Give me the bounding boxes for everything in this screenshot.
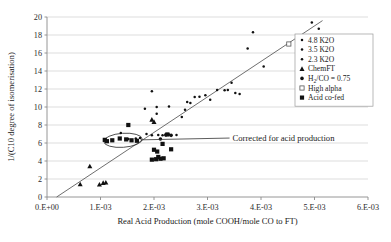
data-point (87, 164, 92, 169)
scatter-chart: 024681012141618200.E+001.E-032.E-033.E-0… (0, 0, 391, 242)
data-point (216, 89, 219, 92)
y-tick-label: 6 (38, 139, 42, 148)
data-point (168, 105, 171, 108)
x-axis-ticks: 0.E+001.E-032.E-033.E-034.E-035.E-036.E-… (35, 197, 379, 212)
x-tick-label: 4.E-03 (250, 203, 272, 212)
data-point (156, 155, 160, 159)
data-point (169, 134, 173, 138)
data-point (300, 86, 304, 90)
y-tick-label: 18 (34, 31, 42, 40)
data-point (198, 95, 201, 98)
data-point (184, 108, 187, 111)
legend: 4.8 K2O3.5 K2O2.3 K2OChemFTH2/CO = 0.75H… (295, 34, 373, 106)
legend-label: ChemFT (308, 64, 335, 73)
data-point (157, 134, 160, 137)
annotation-label: Corrected for acid production (233, 133, 336, 143)
data-point (318, 27, 321, 30)
x-axis-title: Real Acid Production (mole COOH/mole CO … (117, 216, 297, 226)
data-point (161, 134, 164, 137)
legend-label: High alpha (308, 84, 342, 93)
y-tick-label: 14 (34, 67, 42, 76)
data-point (105, 139, 109, 143)
data-point (246, 47, 249, 50)
series-high-alpha (287, 42, 291, 46)
legend-label: 3.5 K2O (308, 45, 335, 54)
legend-label: 2.3 K2O (308, 55, 335, 64)
annotation-leader-line (141, 138, 230, 140)
data-point (262, 65, 265, 68)
data-point (155, 113, 158, 116)
legend-label: Acid co-fed (308, 93, 344, 102)
data-point (151, 90, 154, 93)
x-tick-label: 0.E+00 (35, 203, 59, 212)
data-point (124, 137, 128, 141)
data-point (204, 94, 207, 97)
data-point (151, 134, 154, 137)
y-tick-label: 8 (38, 121, 42, 130)
y-axis-title: 1/(C10 degree of isomerisation) (6, 52, 16, 162)
data-point (227, 89, 230, 92)
y-tick-label: 2 (38, 175, 42, 184)
data-point (155, 149, 159, 153)
data-point (144, 108, 147, 111)
data-point (175, 134, 178, 137)
data-point (129, 138, 133, 142)
data-point (165, 132, 169, 136)
data-point (181, 116, 184, 119)
series-chemft (78, 117, 157, 186)
legend-item[interactable]: H2/CO = 0.75 (300, 74, 350, 84)
data-point (301, 39, 304, 42)
data-point (193, 96, 196, 99)
data-point (145, 133, 148, 136)
y-axis-ticks: 02468101214161820 (34, 13, 47, 202)
data-point (160, 142, 164, 146)
series-acid-co-fed (103, 123, 174, 162)
trendline (57, 21, 323, 197)
data-point (150, 158, 154, 162)
data-point (300, 77, 304, 81)
data-point (223, 89, 226, 92)
y-tick-label: 4 (38, 157, 42, 166)
data-point (155, 106, 158, 109)
data-point (189, 102, 192, 105)
data-point (110, 138, 114, 142)
data-point (238, 93, 241, 96)
data-point (311, 21, 314, 24)
y-tick-label: 20 (34, 13, 42, 22)
data-point (169, 147, 173, 151)
data-point (252, 31, 255, 34)
legend-label: 4.8 K2O (308, 36, 335, 45)
data-point (186, 101, 189, 104)
y-tick-label: 10 (34, 103, 42, 112)
data-point (118, 136, 122, 140)
data-point (287, 42, 291, 46)
x-tick-label: 1.E-03 (89, 203, 111, 212)
y-tick-label: 12 (34, 85, 42, 94)
data-point (139, 137, 142, 140)
x-tick-label: 2.E-03 (143, 203, 165, 212)
data-point (120, 132, 123, 135)
data-point (300, 96, 304, 100)
y-tick-label: 0 (38, 193, 42, 202)
y-tick-label: 16 (34, 49, 42, 58)
data-point (159, 137, 163, 141)
x-tick-label: 3.E-03 (196, 203, 218, 212)
x-tick-label: 6.E-03 (357, 203, 379, 212)
x-tick-label: 5.E-03 (303, 203, 325, 212)
data-point (301, 58, 304, 61)
chart-container: 024681012141618200.E+001.E-032.E-033.E-0… (0, 0, 391, 242)
data-point (162, 156, 166, 160)
data-point (126, 123, 130, 127)
data-point (209, 99, 212, 102)
data-point (135, 139, 139, 143)
data-point (301, 48, 304, 51)
data-point (230, 81, 233, 84)
data-point (234, 92, 237, 95)
